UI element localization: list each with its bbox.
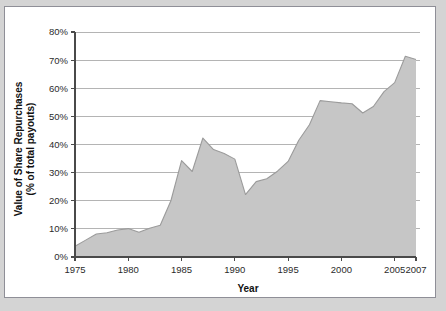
y-tick-label-30: 30%: [49, 167, 69, 178]
x-axis-title: Year: [237, 283, 258, 294]
x-tick-label-1990: 1990: [224, 264, 245, 275]
area-chart: 0%10%20%30%40%50%60%70%80% 1975198019851…: [5, 7, 437, 299]
x-tick-label-1980: 1980: [118, 264, 139, 275]
chart-panel: 0%10%20%30%40%50%60%70%80% 1975198019851…: [4, 6, 436, 298]
chart-area: 0%10%20%30%40%50%60%70%80% 1975198019851…: [5, 7, 437, 299]
x-tick-label-1975: 1975: [64, 264, 85, 275]
area-series: [75, 56, 416, 257]
y-tick-label-20: 20%: [49, 195, 69, 206]
x-tick-label-2007: 2007: [405, 264, 426, 275]
figure-page: 0%10%20%30%40%50%60%70%80% 1975198019851…: [0, 0, 446, 311]
y-tick-label-10: 10%: [49, 223, 69, 234]
y-axis-title-line1: Value of Share Repurchases: [13, 81, 24, 216]
y-tick-label-40: 40%: [49, 139, 69, 150]
x-tick-label-2000: 2000: [331, 264, 352, 275]
x-axis-ticks: 19751980198519901995200020052007: [64, 257, 426, 275]
x-tick-label-2005: 2005: [384, 264, 405, 275]
x-tick-label-1995: 1995: [278, 264, 299, 275]
x-tick-label-1985: 1985: [171, 264, 192, 275]
y-tick-label-50: 50%: [49, 111, 69, 122]
area-fill-path: [75, 56, 416, 257]
y-tick-label-80: 80%: [49, 26, 69, 37]
y-tick-label-0: 0%: [54, 251, 68, 262]
y-tick-label-60: 60%: [49, 83, 69, 94]
y-axis-title-line2: (% of total payouts): [25, 103, 36, 196]
y-axis-ticks: 0%10%20%30%40%50%60%70%80%: [49, 26, 75, 262]
y-tick-label-70: 70%: [49, 55, 69, 66]
